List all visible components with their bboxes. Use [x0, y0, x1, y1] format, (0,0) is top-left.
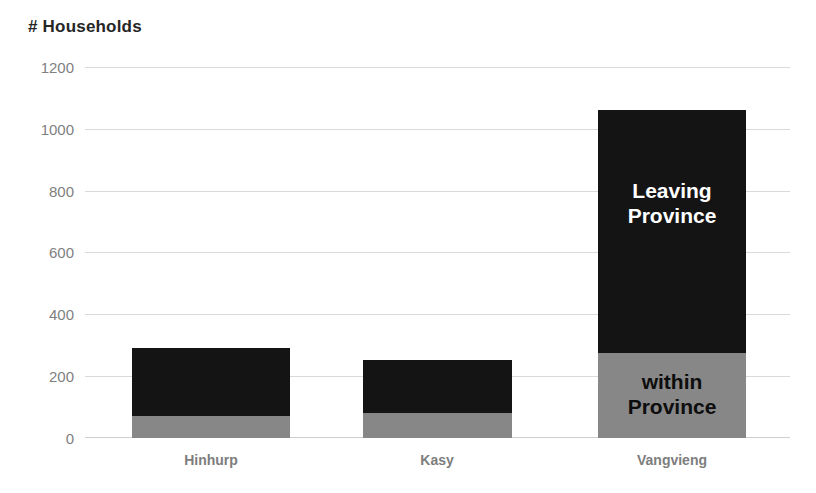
bar-kasy-leaving-province[interactable]	[363, 360, 512, 413]
y-tick-0: 0	[0, 430, 74, 447]
x-label-vangvieng: Vangvieng	[637, 452, 707, 468]
bar-kasy[interactable]	[363, 360, 512, 438]
chart-title: # Households	[28, 17, 142, 37]
bar-hinhurp[interactable]	[132, 348, 290, 438]
y-tick-400: 400	[0, 306, 74, 323]
y-tick-600: 600	[0, 244, 74, 261]
bar-hinhurp-within-province[interactable]	[132, 416, 290, 438]
gridline-1200	[85, 67, 790, 68]
y-tick-800: 800	[0, 183, 74, 200]
y-tick-1200: 1200	[0, 59, 74, 76]
bar-vangvieng-leaving-province[interactable]: Leaving Province	[598, 110, 746, 353]
annotation-leaving-province: Leaving Province	[598, 178, 746, 228]
plot-area: Leaving Province within Province	[85, 67, 790, 438]
bar-vangvieng-within-province[interactable]: within Province	[598, 353, 746, 438]
x-label-kasy: Kasy	[420, 452, 453, 468]
annotation-within-province: within Province	[598, 369, 746, 419]
y-tick-1000: 1000	[0, 121, 74, 138]
stacked-bar-chart: # Households 1200 1000 800 600 400 200 0	[0, 0, 816, 493]
bar-hinhurp-leaving-province[interactable]	[132, 348, 290, 416]
y-tick-200: 200	[0, 368, 74, 385]
bar-vangvieng[interactable]: Leaving Province within Province	[598, 110, 746, 438]
x-label-hinhurp: Hinhurp	[184, 452, 238, 468]
bar-kasy-within-province[interactable]	[363, 413, 512, 438]
